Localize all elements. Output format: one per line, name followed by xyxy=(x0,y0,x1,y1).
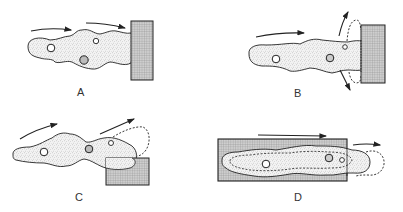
panel-label-d: D xyxy=(294,191,302,203)
motion-arrow xyxy=(258,135,326,136)
nucleus xyxy=(272,55,280,63)
motion-arrow xyxy=(256,33,304,37)
nucleus xyxy=(325,154,333,162)
nucleus xyxy=(326,54,334,62)
obstacle-block xyxy=(131,21,153,80)
motion-arrow xyxy=(353,144,380,145)
motion-arrow xyxy=(20,124,57,139)
vacuole xyxy=(343,45,348,50)
spreading-lamella-outline xyxy=(349,72,361,83)
cell-contact-diagram: A B C xyxy=(0,0,403,212)
motion-arrow xyxy=(100,119,134,134)
vacuole xyxy=(93,38,98,43)
panel-label-b: B xyxy=(294,87,301,99)
panel-label-c: C xyxy=(75,191,83,203)
vacuole xyxy=(109,141,114,146)
panel-a: A xyxy=(28,21,153,98)
amoeboid-cell xyxy=(249,39,371,73)
nucleus xyxy=(47,44,55,52)
spreading-arrow-down xyxy=(340,70,350,90)
obstacle-block xyxy=(361,25,385,83)
nucleus xyxy=(80,56,88,64)
nucleus xyxy=(262,160,270,168)
panel-label-a: A xyxy=(77,86,85,98)
nucleus xyxy=(40,148,48,156)
panel-b: B xyxy=(249,12,385,99)
motion-arrow xyxy=(31,29,71,31)
spreading-lamella-outline xyxy=(347,20,361,41)
spreading-arrow-up xyxy=(339,12,348,36)
motion-arrow xyxy=(86,23,125,28)
panel-d: D xyxy=(218,135,384,203)
vacuole xyxy=(340,158,345,163)
panel-c: C xyxy=(13,119,149,203)
nucleus xyxy=(85,145,93,153)
